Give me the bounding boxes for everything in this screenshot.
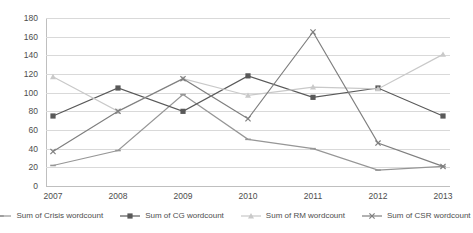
y-axis-tick-label: 80	[0, 107, 38, 116]
series-sum-of-crisis-wordcount	[50, 95, 446, 171]
legend-item[interactable]: Sum of CG wordcount	[119, 211, 224, 221]
series-sum-of-csr-wordcount	[50, 29, 445, 169]
series-line	[53, 95, 443, 171]
x-axis-tick-label: 2012	[348, 192, 408, 201]
x-axis-tick-label: 2009	[153, 192, 213, 201]
series-line	[53, 32, 443, 166]
x-axis-tick-label: 2007	[23, 192, 83, 201]
legend-marker-icon	[0, 211, 12, 221]
data-point-marker	[180, 109, 185, 114]
series-line	[53, 54, 443, 111]
legend-marker-icon	[240, 211, 262, 221]
data-point-marker	[310, 29, 315, 34]
x-axis-tick-label: 2013	[413, 192, 473, 201]
data-point-marker	[375, 140, 380, 145]
x-axis-tick-label: 2010	[218, 192, 278, 201]
data-point-marker	[310, 95, 315, 100]
y-axis-tick-label: 20	[0, 163, 38, 172]
data-point-marker	[128, 213, 133, 218]
legend-item[interactable]: Sum of Crisis wordcount	[0, 211, 103, 221]
y-axis-tick-label: 60	[0, 126, 38, 135]
gridline	[46, 186, 450, 187]
y-axis-tick-label: 40	[0, 145, 38, 154]
data-point-marker	[440, 113, 445, 118]
y-axis-tick-label: 160	[0, 33, 38, 42]
legend-item[interactable]: Sum of RM wordcount	[240, 211, 345, 221]
data-point-marker	[50, 149, 55, 154]
legend-label: Sum of Crisis wordcount	[16, 212, 103, 220]
legend-label: Sum of RM wordcount	[266, 212, 345, 220]
legend-label: Sum of CSR wordcount	[387, 212, 471, 220]
series-sum-of-rm-wordcount	[50, 51, 446, 113]
x-axis-tick-label: 2008	[88, 192, 148, 201]
data-point-marker	[50, 74, 56, 79]
data-point-marker	[115, 85, 120, 90]
chart-legend: Sum of Crisis wordcountSum of CG wordcou…	[0, 208, 461, 224]
legend-label: Sum of CG wordcount	[145, 212, 224, 220]
y-axis-tick-label: 0	[0, 182, 38, 191]
plot-area	[46, 18, 450, 186]
y-axis-tick-label: 100	[0, 89, 38, 98]
legend-marker-icon	[119, 211, 141, 221]
series-layer	[46, 18, 450, 186]
y-axis-tick-label: 140	[0, 51, 38, 60]
legend-marker-icon	[361, 211, 383, 221]
data-point-marker	[245, 73, 250, 78]
y-axis-tick-label: 180	[0, 14, 38, 23]
legend-item[interactable]: Sum of CSR wordcount	[361, 211, 471, 221]
y-axis-tick-label: 120	[0, 70, 38, 79]
x-axis-tick-label: 2011	[283, 192, 343, 201]
data-point-marker	[50, 113, 55, 118]
data-point-marker	[245, 116, 250, 121]
data-point-marker	[440, 51, 446, 56]
